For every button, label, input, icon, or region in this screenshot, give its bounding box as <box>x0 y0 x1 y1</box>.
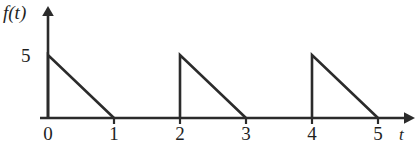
figure-container: f(t) t 5 0 1 2 3 4 5 <box>0 0 417 155</box>
x-tick-label-5: 5 <box>367 124 389 143</box>
x-axis-label: t <box>399 126 404 143</box>
waveform-pulse-3 <box>312 55 378 118</box>
x-tick-label-0: 0 <box>37 124 59 143</box>
x-tick-label-4: 4 <box>301 124 323 143</box>
x-tick-label-1: 1 <box>103 124 125 143</box>
y-tick-label-5: 5 <box>21 46 31 65</box>
x-axis-arrowhead <box>404 112 415 124</box>
plot-canvas <box>0 0 417 155</box>
y-axis-arrowhead <box>42 6 54 16</box>
waveform-pulse-2 <box>180 55 246 118</box>
y-axis-label: f(t) <box>3 3 26 22</box>
x-tick-label-3: 3 <box>235 124 257 143</box>
waveform-pulse-1 <box>48 55 114 118</box>
x-tick-label-2: 2 <box>169 124 191 143</box>
